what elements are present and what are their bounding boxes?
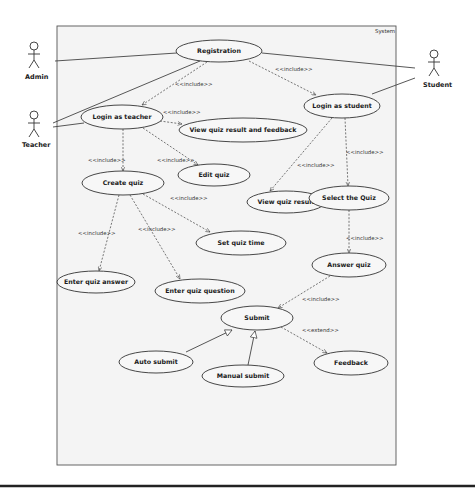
svg-text:Manual submit: Manual submit [217,372,270,379]
svg-text:View quiz result and feedback: View quiz result and feedback [189,126,297,134]
label-include-reg-teacher: <<include>> [175,81,213,87]
svg-text:Feedback: Feedback [334,359,369,366]
use-case-select-quiz: Select the Quiz [309,186,389,210]
label-include-create-question: <<include>> [138,226,176,232]
system-label: System [375,28,395,35]
use-case-login-student: Login as student [304,94,380,118]
use-case-submit: Submit [221,306,293,330]
actor-admin-label: Admin [25,73,49,81]
svg-text:Submit: Submit [244,314,269,321]
use-case-set-time: Set quiz time [196,231,286,255]
use-case-diagram: System Admin Teacher Student [0,0,475,499]
use-case-manual-submit: Manual submit [202,365,284,387]
actor-teacher [28,111,40,137]
svg-text:Login as teacher: Login as teacher [93,113,153,121]
svg-text:Answer quiz: Answer quiz [327,261,371,269]
actor-student-label: Student [423,81,452,89]
label-include-reg-student: <<include>> [275,66,313,72]
label-extend-submit-feedback: <<extend>> [302,327,339,333]
use-case-view-result-feedback: View quiz result and feedback [179,118,307,142]
label-include-answer-submit: <<include>> [302,296,340,302]
label-include-teacher-view: <<include>> [163,109,201,115]
actor-teacher-label: Teacher [22,141,51,149]
svg-text:Auto submit: Auto submit [134,358,177,365]
label-include-student-select: <<include>> [346,149,384,155]
use-case-edit-quiz: Edit quiz [178,164,250,186]
label-include-student-view: <<include>> [297,162,335,168]
actor-admin [28,42,40,68]
svg-text:Set quiz time: Set quiz time [217,239,264,247]
use-case-registration: Registration [176,40,262,62]
actor-student [428,50,440,76]
svg-text:View quiz result: View quiz result [258,198,315,206]
use-case-login-teacher: Login as teacher [81,105,163,129]
label-include-teacher-edit: <<include>> [157,157,195,163]
svg-text:Enter quiz answer: Enter quiz answer [64,278,129,286]
use-case-enter-answer: Enter quiz answer [57,271,135,293]
use-case-feedback: Feedback [314,351,388,375]
label-include-teacher-create: <<include>> [88,157,126,163]
svg-text:Enter quiz question: Enter quiz question [165,287,234,295]
use-case-answer-quiz: Answer quiz [312,253,386,277]
use-case-enter-question: Enter quiz question [155,279,245,303]
use-case-create-quiz: Create quiz [82,171,164,195]
svg-text:Create quiz: Create quiz [103,179,144,187]
use-case-auto-submit: Auto submit [119,351,193,373]
label-include-create-time: <<include>> [170,195,208,201]
svg-text:Registration: Registration [197,47,241,55]
svg-text:Edit quiz: Edit quiz [199,171,230,179]
svg-text:Login as student: Login as student [312,102,371,110]
label-include-create-answer: <<include>> [78,230,116,236]
svg-text:Select the Quiz: Select the Quiz [322,194,376,201]
label-include-select-answer: <<include>> [346,235,384,241]
